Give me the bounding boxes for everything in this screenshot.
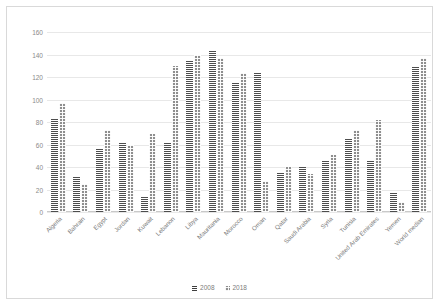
series-2018-swatch [225,286,230,291]
bar-group [205,32,228,212]
bar-2008 [345,139,352,212]
bar-2018 [127,145,134,213]
bar-2008 [209,50,216,212]
x-label-cell: Libya [183,213,206,273]
bar-2008 [254,73,261,213]
legend-label: 2018 [233,284,247,292]
bar-2018 [194,55,201,213]
bar-group [318,32,341,212]
bar-2008 [412,66,419,212]
bar-2018 [353,130,360,212]
chart-legend: 20082018 [7,284,432,292]
y-tick-label-80: 80 [13,119,43,126]
x-tick-label: Libya [183,215,198,230]
y-tick-label-0: 0 [13,209,43,216]
x-label-cell: Algeria [47,213,70,273]
x-tick-label: Algeria [45,215,64,234]
plot-area [47,32,431,212]
bar-2018 [420,58,427,212]
x-label-cell: Syria [318,213,341,273]
y-tick-label-60: 60 [13,141,43,148]
bar-2018 [398,202,405,212]
x-label-cell: Saudi Arabia [296,213,319,273]
x-label-cell: Mauritania [205,213,228,273]
bar-2008 [119,142,126,212]
bar-2008 [164,142,171,212]
bar-2018 [172,66,179,212]
bar-2008 [232,83,239,212]
chart-root: 020406080100120140160 AlgeriaBahrainEgyp… [0,0,439,305]
legend-item-2018[interactable]: 2018 [225,284,247,292]
bar-group [115,32,138,212]
bar-2008 [73,177,80,212]
y-tick-label-140: 140 [13,51,43,58]
bar-2008 [367,161,374,212]
bar-2018 [59,103,66,212]
bar-2018 [240,73,247,213]
x-label-cell: Qatar [273,213,296,273]
x-label-cell: Jordan [115,213,138,273]
bar-2008 [299,167,306,212]
y-tick-label-40: 40 [13,164,43,171]
x-tick-label: Jordan [113,215,131,233]
bar-group [70,32,93,212]
x-label-cell: United Arab Emirates [363,213,386,273]
bar-group [341,32,364,212]
bar-group [137,32,160,212]
bar-group [47,32,70,212]
chart-frame: 020406080100120140160 AlgeriaBahrainEgyp… [6,6,433,299]
bar-2008 [186,60,193,212]
bar-2018 [262,181,269,213]
bar-2018 [285,167,292,212]
bar-group [296,32,319,212]
bar-2008 [51,118,58,213]
legend-label: 2008 [200,284,214,292]
series-2008-swatch [192,286,197,291]
x-label-cell: Morocco [228,213,251,273]
bar-group [273,32,296,212]
bar-group [92,32,115,212]
x-tick-label: Egypt [92,215,108,231]
bar-2008 [322,160,329,212]
legend-item-2008[interactable]: 2008 [192,284,214,292]
bar-2018 [104,130,111,212]
x-label-cell: Lebanon [160,213,183,273]
bar-group [386,32,409,212]
y-tick-label-120: 120 [13,74,43,81]
x-tick-label: Yemen [384,215,402,233]
y-axis: 020406080100120140160 [7,32,43,212]
bar-group [363,32,386,212]
x-label-cell: Egypt [92,213,115,273]
bar-2018 [81,184,88,212]
bar-2018 [375,120,382,212]
bar-group [250,32,273,212]
x-tick-label: Qatar [273,215,289,231]
y-tick-label-20: 20 [13,186,43,193]
bar-groups [47,32,431,212]
x-tick-label: Oman [250,215,267,232]
y-tick-label-160: 160 [13,29,43,36]
bar-2018 [149,134,156,212]
bar-2018 [307,174,314,212]
bar-group [183,32,206,212]
x-tick-label: Tunisia [338,215,357,234]
x-label-cell: Kuwait [137,213,160,273]
bar-group [160,32,183,212]
x-label-cell: Oman [250,213,273,273]
bar-2008 [390,192,397,212]
x-tick-label: Kuwait [136,215,154,233]
bar-2018 [217,58,224,212]
y-tick-label-100: 100 [13,96,43,103]
bar-2008 [96,149,103,212]
bar-2018 [330,155,337,212]
x-axis-labels: AlgeriaBahrainEgyptJordanKuwaitLebanonLi… [47,213,431,273]
x-label-cell: World median [409,213,432,273]
bar-2008 [277,173,284,212]
x-tick-label: Bahrain [66,215,86,235]
bar-group [409,32,432,212]
x-label-cell: Bahrain [70,213,93,273]
bar-2008 [141,196,148,212]
x-tick-label: Syria [319,215,334,230]
bar-group [228,32,251,212]
